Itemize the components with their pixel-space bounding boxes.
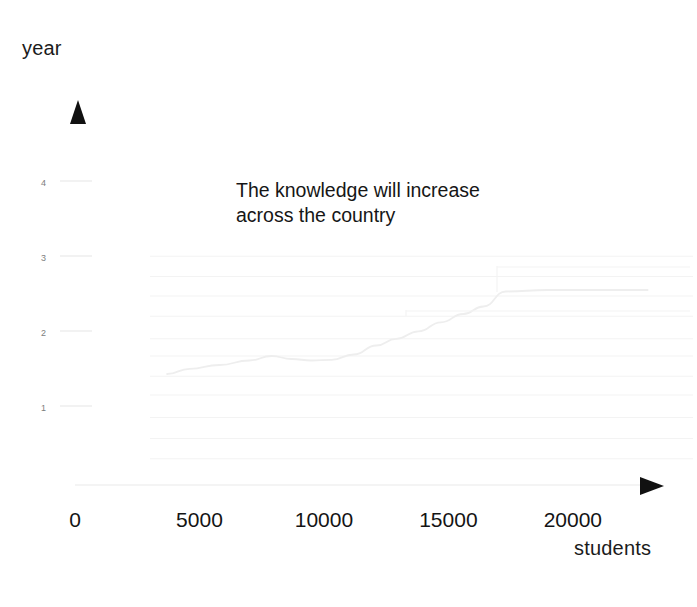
y-axis-arrow-icon (70, 100, 86, 124)
x-axis-tick-label: 15000 (393, 508, 503, 532)
x-axis-tick-label: 5000 (144, 508, 254, 532)
x-axis-tick-label: 0 (20, 508, 130, 532)
y-axis-tick-label: 1 (26, 403, 46, 413)
data-series-line (167, 290, 647, 374)
x-axis-tick-label: 10000 (269, 508, 379, 532)
y-axis-tick-label: 3 (26, 253, 46, 263)
x-axis-arrow-icon (640, 477, 664, 495)
y-axis-tick-label: 2 (26, 328, 46, 338)
y-axis-tick-label: 4 (26, 178, 46, 188)
series-step-marks (406, 266, 690, 316)
chart-canvas: year students The knowledge will increas… (0, 0, 697, 607)
y-axis-ticks (60, 181, 92, 406)
gridlines (150, 256, 693, 459)
x-axis-tick-label: 20000 (518, 508, 628, 532)
